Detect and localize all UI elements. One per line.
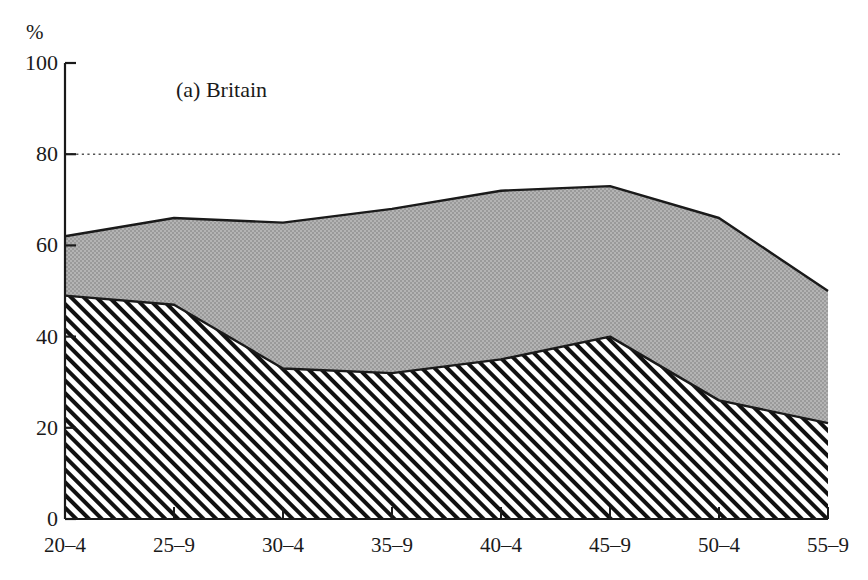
- x-axis-tick-label-35-9: 35–9: [371, 535, 413, 556]
- x-axis-tick-label-20-4: 20–4: [44, 535, 86, 556]
- x-axis-tick-label-40-4: 40–4: [480, 535, 522, 556]
- x-axis-tick-label-30-4: 30–4: [262, 535, 304, 556]
- x-axis-tick-label-25-9: 25–9: [153, 535, 195, 556]
- x-axis-tick-label-50-4: 50–4: [698, 535, 740, 556]
- figure-panel-britain: % (a) Britain 020406080100: [0, 0, 868, 580]
- x-axis-tick-label-55-9: 55–9: [807, 535, 849, 556]
- area-chart-plot: [0, 0, 868, 580]
- x-axis-tick-label-45-9: 45–9: [589, 535, 631, 556]
